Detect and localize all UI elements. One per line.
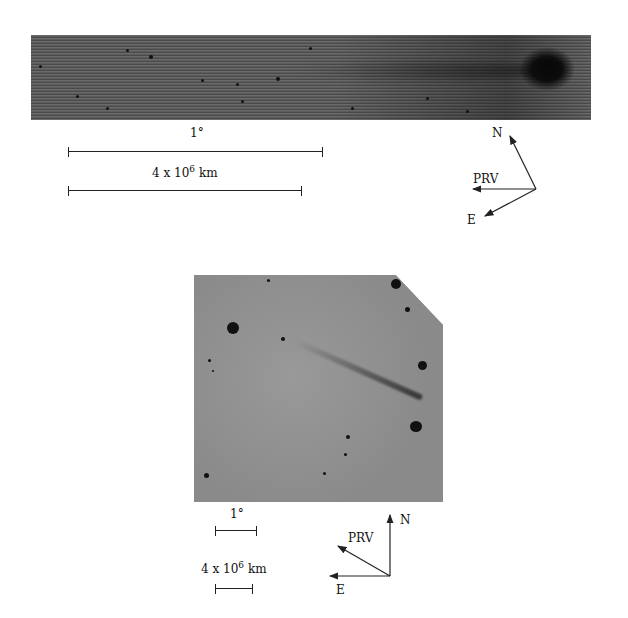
bottom-compass-north-label: N	[400, 513, 411, 527]
bottom-compass-east-label: E	[336, 583, 345, 597]
bottom-compass-arrows	[0, 0, 628, 618]
bottom-compass-prv-label: PRV	[348, 531, 373, 545]
